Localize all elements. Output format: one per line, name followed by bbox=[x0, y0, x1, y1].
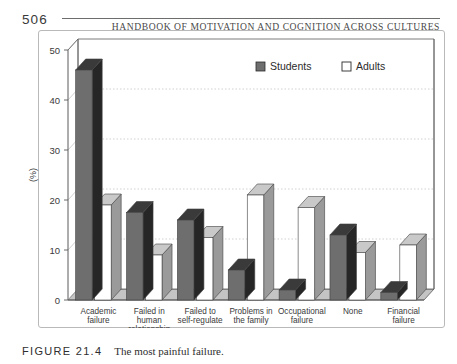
header-rule bbox=[62, 18, 440, 19]
bar-students bbox=[177, 209, 204, 300]
x-axis-category-label: human bbox=[137, 316, 162, 325]
bar-side-face bbox=[111, 194, 121, 300]
bar-students bbox=[127, 202, 154, 301]
bar-front-face bbox=[381, 293, 398, 301]
bar-chart: 01020304050AcademicfailureFailed inhuman… bbox=[20, 28, 440, 328]
y-axis-title: (%) bbox=[28, 168, 38, 182]
bar-side-face bbox=[194, 209, 204, 300]
x-axis-category-label: failure bbox=[392, 316, 415, 325]
bar-front-face bbox=[228, 270, 245, 300]
bar-front-face bbox=[279, 290, 296, 300]
x-axis-category-label: relationship bbox=[128, 325, 170, 328]
bar-side-face bbox=[416, 234, 426, 300]
bar-students bbox=[76, 59, 103, 300]
y-axis-tick-label: 10 bbox=[49, 245, 60, 256]
bar-side-face bbox=[315, 197, 325, 301]
x-axis-category-label: Academic bbox=[80, 307, 116, 316]
figure-caption: FIGURE 21.4The most painful failure. bbox=[22, 341, 442, 359]
bar-side-face bbox=[346, 224, 356, 300]
bar-front-face bbox=[76, 70, 93, 300]
bar-front-face bbox=[330, 235, 347, 300]
bar-front-face bbox=[127, 213, 143, 301]
figure-caption-text: The most painful failure. bbox=[114, 345, 223, 357]
y-axis-tick-label: 0 bbox=[55, 295, 60, 306]
legend-label-adults: Adults bbox=[356, 60, 385, 72]
x-axis-category-label: Failed to bbox=[184, 307, 216, 316]
x-axis-category-label: failure bbox=[87, 316, 110, 325]
x-axis-category-label: self-regulate bbox=[178, 316, 224, 325]
x-axis-category-label: Problems in bbox=[229, 307, 273, 316]
y-axis-tick-label: 30 bbox=[49, 145, 60, 156]
x-axis-category-label: the family bbox=[233, 316, 269, 325]
x-axis-category-label: failure bbox=[291, 316, 314, 325]
y-axis-top-depth bbox=[68, 39, 78, 50]
x-axis-category-label: Failed in bbox=[134, 307, 165, 316]
y-axis-tick-label: 40 bbox=[49, 95, 60, 106]
legend-swatch-adults bbox=[342, 62, 351, 71]
x-axis-category-label: Occupational bbox=[278, 307, 326, 316]
legend-swatch-students bbox=[256, 62, 265, 71]
x-axis-category-label: Financial bbox=[387, 307, 420, 316]
page-number: 506 bbox=[22, 12, 48, 27]
figure-number: FIGURE 21.4 bbox=[22, 345, 102, 357]
x-axis-category-label: None bbox=[343, 307, 363, 316]
bar-side-face bbox=[92, 59, 102, 300]
bar-side-face bbox=[213, 227, 223, 301]
bar-side-face bbox=[143, 202, 153, 301]
bar-front-face bbox=[177, 220, 194, 300]
y-axis-tick-label: 20 bbox=[49, 195, 60, 206]
y-axis-tick-label: 50 bbox=[49, 45, 60, 56]
book-page: 506 HANDBOOK OF MOTIVATION AND COGNITION… bbox=[0, 0, 457, 364]
bar-students bbox=[330, 224, 357, 300]
bar-side-face bbox=[264, 184, 274, 300]
legend-label-students: Students bbox=[270, 60, 311, 72]
